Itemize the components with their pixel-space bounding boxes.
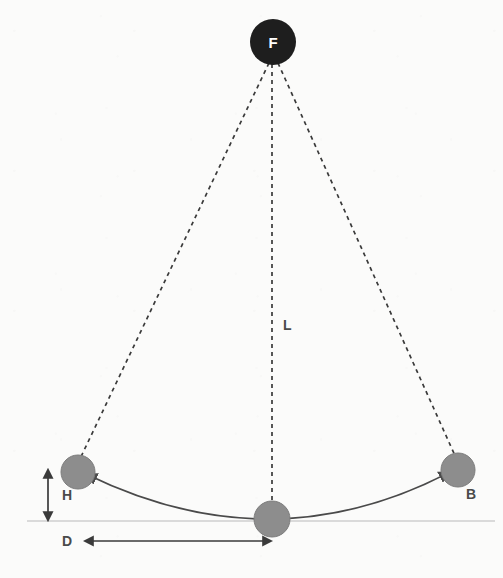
- bob-left-position: [61, 455, 95, 489]
- pivot-label: F: [268, 34, 277, 51]
- string-to-right-bob: [278, 63, 457, 460]
- bob-right-label: B: [466, 486, 476, 502]
- length-label: L: [283, 317, 292, 333]
- bob-right-position: [441, 453, 475, 487]
- string-to-left-bob: [78, 63, 269, 463]
- height-label: H: [62, 487, 72, 503]
- diagram-canvas: F L B H D: [0, 0, 503, 578]
- bob-center-position: [254, 501, 290, 537]
- displacement-label: D: [62, 533, 72, 549]
- pendulum-diagram: F L B H D: [0, 0, 503, 578]
